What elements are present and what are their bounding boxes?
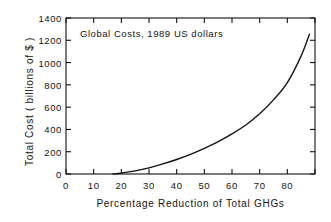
x-axis-tick-label: 20 [115, 180, 127, 191]
x-axis-tick-label: 60 [226, 180, 238, 191]
x-axis-tick-label: 30 [143, 180, 155, 191]
y-axis-tick-label: 800 [14, 79, 62, 90]
y-axis-tick-label: 0 [14, 169, 62, 180]
x-axis-title: Percentage Reduction of Total GHGs [66, 198, 315, 209]
x-axis-tick-label: 40 [171, 180, 183, 191]
x-axis-tick-label: 50 [198, 180, 210, 191]
y-axis-tick-label: 1200 [14, 35, 62, 46]
y-axis-tick-label: 200 [14, 146, 62, 157]
x-axis-tick-label: 70 [254, 180, 266, 191]
plot-annotation: Global Costs, 1989 US dollars [80, 28, 223, 39]
y-axis-tick-label: 400 [14, 124, 62, 135]
y-axis-tick-label: 1400 [14, 13, 62, 24]
chart-figure: Total Cost ( billions of $ ) Percentage … [0, 0, 331, 222]
y-axis-tick-label: 600 [14, 102, 62, 113]
x-axis-tick-label: 10 [88, 180, 100, 191]
y-axis-tick-label: 1000 [14, 57, 62, 68]
x-axis-tick-label: 0 [63, 180, 69, 191]
x-axis-tick-label: 80 [281, 180, 293, 191]
